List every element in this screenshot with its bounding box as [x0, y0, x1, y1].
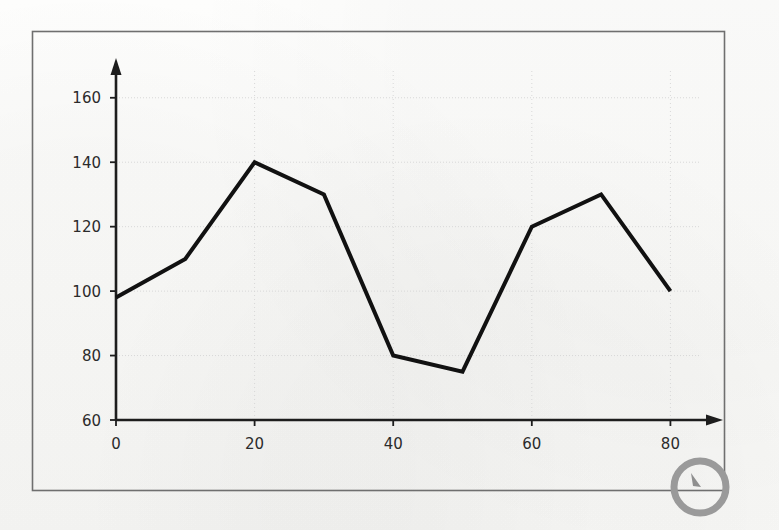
x-axis-tick-labels: 020406080	[111, 435, 680, 453]
y-axis-tick-label: 80	[82, 347, 101, 365]
y-axis-tick-label: 60	[82, 412, 101, 430]
y-axis-tick-label: 120	[72, 218, 101, 236]
data-series-line	[116, 162, 670, 371]
x-axis-tick-label: 0	[111, 435, 121, 453]
outer-frame-border	[33, 32, 725, 491]
y-axis-tick-label: 160	[72, 89, 101, 107]
line-chart-figure: 6080100120140160 020406080	[0, 0, 779, 530]
circle-highlight	[674, 461, 726, 513]
y-axis-arrow-icon	[111, 58, 122, 75]
cursor-arrow-mark	[691, 473, 701, 487]
x-axis-tick-label: 60	[522, 435, 541, 453]
circle-annotation	[674, 461, 726, 513]
axes-group	[111, 58, 724, 426]
chart-canvas: 6080100120140160 020406080	[0, 0, 779, 530]
y-axis-tick-label: 140	[72, 154, 101, 172]
x-axis-tick-label: 40	[384, 435, 403, 453]
y-axis-tick-label: 100	[72, 283, 101, 301]
x-axis-tick-label: 80	[661, 435, 680, 453]
x-axis-arrow-icon	[706, 415, 723, 426]
y-axis-tick-labels: 6080100120140160	[72, 89, 101, 429]
x-axis-tick-label: 20	[245, 435, 264, 453]
horizontal-gridlines	[116, 98, 700, 356]
